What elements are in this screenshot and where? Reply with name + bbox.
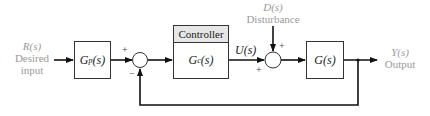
disturbance-label: D(s) Disturbance	[243, 1, 303, 25]
sum2-plus-top-sign: +	[279, 40, 285, 51]
controller-label: G	[189, 53, 198, 68]
block-diagram: R(s) Desired input Gp(s) + − Controller …	[0, 0, 430, 116]
input-signal: R(s)	[12, 40, 52, 52]
disturbance-desc: Disturbance	[243, 13, 303, 25]
plant-block: G(s)	[306, 41, 344, 79]
output-signal: Y(s)	[378, 46, 422, 58]
output-desc: Output	[378, 58, 422, 70]
prefilter-block: Gp(s)	[74, 41, 111, 79]
prefilter-arg: (s)	[93, 53, 106, 68]
disturbance-signal: D(s)	[243, 1, 303, 13]
controller-title: Controller	[174, 26, 228, 43]
summing-junction-1	[133, 53, 148, 68]
sum1-plus-sign: +	[122, 44, 128, 55]
plant-label: G(s)	[314, 53, 335, 68]
controller-arg: (s)	[201, 53, 214, 68]
sum2-plus-left-sign: +	[256, 64, 262, 75]
prefilter-label: G	[80, 53, 89, 68]
control-signal-label: U(s)	[235, 44, 256, 56]
summing-junction-2	[265, 52, 281, 68]
sum1-minus-sign: −	[129, 68, 135, 79]
output-label: Y(s) Output	[378, 46, 422, 70]
controller-block: Controller Gc(s)	[173, 25, 229, 79]
input-desc-1: Desired	[12, 52, 52, 64]
input-desc-2: input	[12, 64, 52, 76]
input-label: R(s) Desired input	[12, 40, 52, 76]
